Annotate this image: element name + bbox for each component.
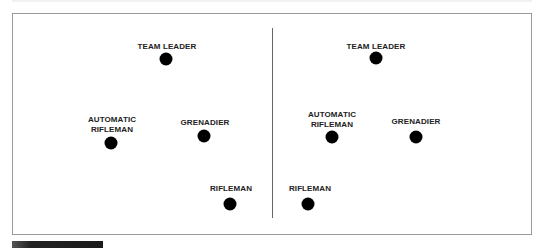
left-automatic-rifleman-label-line1: AUTOMATIC [88,115,136,125]
left-rifleman-label: RIFLEMAN [210,184,252,194]
panel-divider [272,28,273,218]
right-team-leader-label-line: TEAM LEADER [347,42,406,51]
left-rifleman-position-icon [224,198,237,211]
right-automatic-rifleman-label-line2: RIFLEMAN [308,120,356,130]
right-grenadier-position-icon [410,131,423,144]
bottom-edge-bar [12,241,103,248]
right-automatic-rifleman-position-icon [326,131,339,144]
right-grenadier-label: GRENADIER [392,117,441,127]
left-team-leader-label-line: TEAM LEADER [138,42,197,51]
left-team-leader-label: TEAM LEADER [138,42,197,52]
left-team-leader-position-icon [160,53,173,66]
right-team-leader-position-icon [370,52,383,65]
left-rifleman-label-line: RIFLEMAN [210,184,252,193]
left-automatic-rifleman-position-icon [105,137,118,150]
top-edge-strip [12,0,532,2]
right-automatic-rifleman-label: AUTOMATIC RIFLEMAN [308,110,356,129]
right-grenadier-label-line: GRENADIER [392,117,441,126]
left-grenadier-label: GRENADIER [181,118,230,128]
right-rifleman-label-line: RIFLEMAN [289,184,331,193]
left-automatic-rifleman-label-line2: RIFLEMAN [88,125,136,135]
left-grenadier-label-line: GRENADIER [181,118,230,127]
right-automatic-rifleman-label-line1: AUTOMATIC [308,110,356,120]
left-grenadier-position-icon [198,130,211,143]
right-rifleman-label: RIFLEMAN [289,184,331,194]
right-rifleman-position-icon [302,198,315,211]
right-team-leader-label: TEAM LEADER [347,42,406,52]
left-automatic-rifleman-label: AUTOMATIC RIFLEMAN [88,115,136,134]
